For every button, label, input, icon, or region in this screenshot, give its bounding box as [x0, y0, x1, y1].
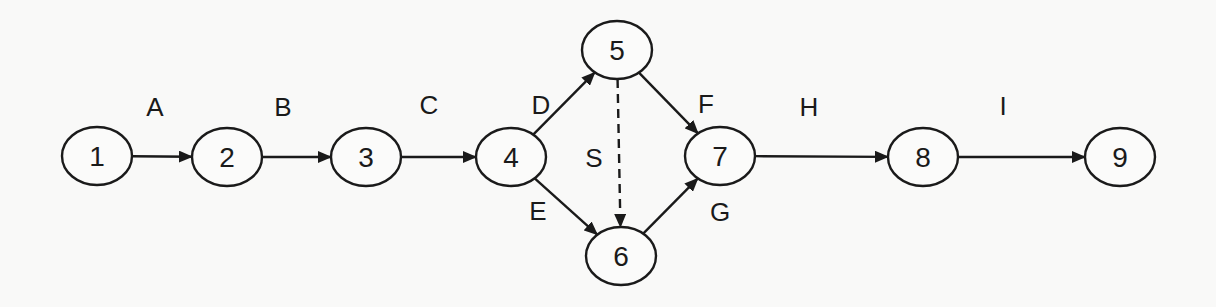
activity-label-d: D	[532, 92, 551, 118]
edge-arrow-s	[618, 79, 621, 227]
diagram-graphics	[0, 0, 1216, 307]
activity-label-c: C	[420, 92, 439, 118]
network-diagram: ABCDESFGHI123456789	[0, 0, 1216, 307]
activity-label-f: F	[698, 91, 714, 117]
event-node-label-3: 3	[358, 144, 374, 172]
edge-arrow-f	[639, 73, 698, 134]
activity-label-g: G	[710, 199, 730, 225]
event-node-label-9: 9	[1112, 144, 1128, 172]
activity-label-s: S	[585, 145, 602, 171]
activity-label-a: A	[146, 94, 163, 120]
event-node-label-4: 4	[503, 144, 519, 172]
event-node-label-5: 5	[609, 37, 625, 65]
event-node-label-6: 6	[613, 243, 629, 271]
edge-arrow-h	[755, 156, 888, 157]
activity-label-b: B	[274, 94, 291, 120]
activity-label-i: I	[999, 93, 1006, 119]
event-node-label-1: 1	[89, 143, 105, 171]
event-node-label-7: 7	[712, 143, 728, 171]
edge-arrow-g	[643, 178, 698, 233]
event-node-label-8: 8	[915, 144, 931, 172]
activity-label-h: H	[800, 94, 819, 120]
event-node-label-2: 2	[219, 144, 235, 172]
activity-label-e: E	[529, 198, 546, 224]
